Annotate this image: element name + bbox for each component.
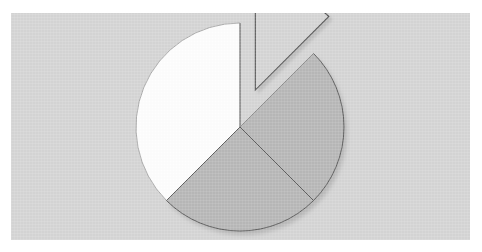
screenshot-root [0,0,482,252]
pie-chart-canvas[interactable] [11,13,470,240]
pie-chart-svg[interactable] [11,13,470,240]
